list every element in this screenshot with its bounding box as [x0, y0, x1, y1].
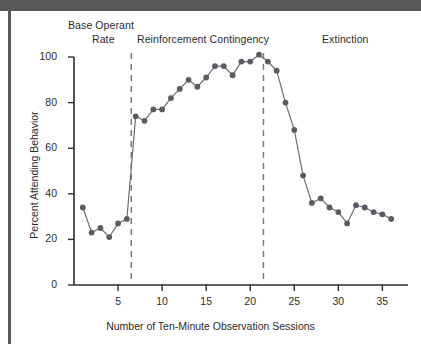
data-series-group	[80, 52, 394, 240]
phase-label-reinforcement-contingency: Reinforcement Contingency	[137, 33, 269, 45]
y-tick-label: 60	[27, 141, 57, 153]
y-tick-label: 100	[27, 50, 57, 62]
phase-label-base-operant: Base Operant	[68, 19, 134, 31]
x-tick-label: 25	[282, 295, 306, 307]
phase-label-rate: Rate	[92, 33, 115, 45]
x-tick-label: 15	[194, 295, 218, 307]
x-tick-label: 5	[106, 295, 130, 307]
page-top-band	[0, 0, 421, 11]
y-tick-label: 20	[27, 232, 57, 244]
chart-figure: Base Operant Rate Reinforcement Continge…	[0, 11, 421, 344]
x-tick-label: 20	[238, 295, 262, 307]
phase-label-extinction: Extinction	[322, 33, 369, 45]
y-tick-label: 0	[27, 278, 57, 290]
figure-page: Base Operant Rate Reinforcement Continge…	[0, 0, 421, 344]
x-tick-label: 30	[326, 295, 350, 307]
x-tick-label: 35	[370, 295, 394, 307]
axes-group	[68, 57, 408, 291]
y-tick-label: 80	[27, 96, 57, 108]
x-axis-label: Number of Ten-Minute Observation Session…	[0, 320, 421, 332]
x-tick-label: 10	[150, 295, 174, 307]
y-tick-label: 40	[27, 187, 57, 199]
